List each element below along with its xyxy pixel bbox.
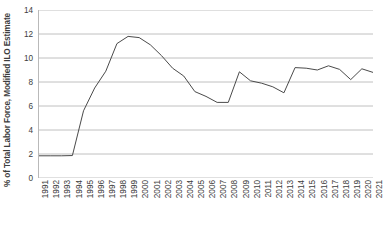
x-tick-label: 1999 (130, 180, 139, 198)
x-tick-label: 1996 (97, 180, 106, 198)
y-tick-label: 12 (24, 30, 33, 39)
x-tick-label: 2010 (253, 180, 262, 198)
x-tick-label: 2021 (375, 180, 384, 198)
y-tick-label: 0 (28, 174, 33, 183)
x-tick-label: 2004 (186, 180, 195, 198)
y-tick-label: 4 (28, 126, 33, 135)
x-tick-label: 1995 (86, 180, 95, 198)
x-tick-label: 2003 (175, 180, 184, 198)
x-tick-label: 1993 (63, 180, 72, 198)
x-tick-label: 2015 (308, 180, 317, 198)
x-tick-label: 2020 (364, 180, 373, 198)
x-tick-label: 2002 (164, 180, 173, 198)
y-tick-label: 8 (28, 78, 33, 87)
x-tick-label: 2009 (242, 180, 251, 198)
plot-area (38, 10, 373, 178)
x-tick-label: 2006 (208, 180, 217, 198)
y-axis-title: % of Total Labor Force, Modified ILO Est… (0, 0, 14, 200)
x-tick-label: 2001 (153, 180, 162, 198)
x-axis-tick-labels: 1991199219931994199519961997199819992000… (38, 180, 372, 248)
x-tick-label: 2013 (286, 180, 295, 198)
y-tick-label: 6 (28, 102, 33, 111)
x-tick-label: 1994 (75, 180, 84, 198)
y-tick-label: 14 (24, 6, 33, 15)
x-tick-label: 1991 (41, 180, 50, 198)
y-tick-label: 2 (28, 150, 33, 159)
x-tick-label: 1998 (119, 180, 128, 198)
x-tick-label: 2011 (264, 180, 273, 198)
x-tick-label: 1992 (52, 180, 61, 198)
x-tick-label: 2017 (331, 180, 340, 198)
gridlines (39, 10, 373, 178)
y-axis-title-text: % of Total Labor Force, Modified ILO Est… (3, 13, 12, 187)
x-tick-label: 2008 (230, 180, 239, 198)
x-tick-label: 2018 (342, 180, 351, 198)
x-tick-label: 2007 (219, 180, 228, 198)
x-tick-label: 2012 (275, 180, 284, 198)
y-tick-label: 10 (24, 54, 33, 63)
x-tick-label: 2000 (141, 180, 150, 198)
x-tick-label: 2005 (197, 180, 206, 198)
data-series-line (39, 36, 373, 155)
x-tick-label: 2019 (353, 180, 362, 198)
x-tick-label: 1997 (108, 180, 117, 198)
y-axis-tick-labels: 02468101214 (14, 0, 36, 200)
x-tick-label: 2014 (297, 180, 306, 198)
x-tick-label: 2016 (320, 180, 329, 198)
plot-svg (39, 10, 373, 178)
